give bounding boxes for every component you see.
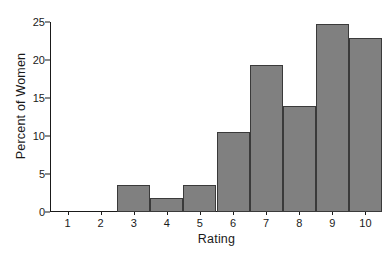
x-tick-mark (167, 212, 168, 215)
x-tick-mark (266, 212, 267, 215)
bar-slot (216, 22, 249, 212)
y-tick-label: 15 (28, 93, 45, 104)
x-tick-label: 1 (51, 216, 84, 230)
x-axis-tick-labels: 12345678910 (51, 216, 382, 230)
x-tick-label: 2 (84, 216, 117, 230)
bar-slot (117, 22, 150, 212)
x-tick-label: 6 (216, 216, 249, 230)
x-tick-mark (200, 212, 201, 215)
y-tick-label: 0 (28, 207, 45, 218)
bar-slot (84, 22, 117, 212)
bar-slot (250, 22, 283, 212)
bar-slot (316, 22, 349, 212)
y-tick-label: 5 (28, 169, 45, 180)
bar (117, 185, 150, 212)
y-tick-label: 20 (28, 55, 45, 66)
x-tick-label: 5 (183, 216, 216, 230)
x-tick-label: 9 (316, 216, 349, 230)
x-tick-mark (365, 212, 366, 215)
bar (349, 38, 382, 212)
bar (217, 132, 250, 212)
bar-slot (349, 22, 382, 212)
bar (283, 106, 316, 212)
bar-slot (283, 22, 316, 212)
bar (316, 24, 349, 212)
plot-area (51, 22, 382, 212)
x-tick-label: 8 (283, 216, 316, 230)
x-tick-label: 4 (150, 216, 183, 230)
x-tick-label: 3 (117, 216, 150, 230)
x-tick-mark (332, 212, 333, 215)
x-axis-title: Rating (51, 232, 382, 246)
bar-slot (51, 22, 84, 212)
x-tick-mark (134, 212, 135, 215)
bar (250, 65, 283, 212)
x-tick-mark (233, 212, 234, 215)
bar (183, 185, 216, 212)
bar-series (51, 22, 382, 212)
y-tick-label: 10 (28, 131, 45, 142)
x-tick-mark (299, 212, 300, 215)
x-tick-mark (68, 212, 69, 215)
x-tick-label: 10 (349, 216, 382, 230)
x-tick-label: 7 (250, 216, 283, 230)
bar-slot (150, 22, 183, 212)
y-tick-label: 25 (28, 17, 45, 28)
x-tick-mark (101, 212, 102, 215)
bar-slot (183, 22, 216, 212)
bar-chart: Percent of Women 0510152025 12345678910 … (0, 0, 391, 262)
bar (150, 198, 183, 212)
y-axis-tick-labels: 0510152025 (28, 0, 45, 262)
